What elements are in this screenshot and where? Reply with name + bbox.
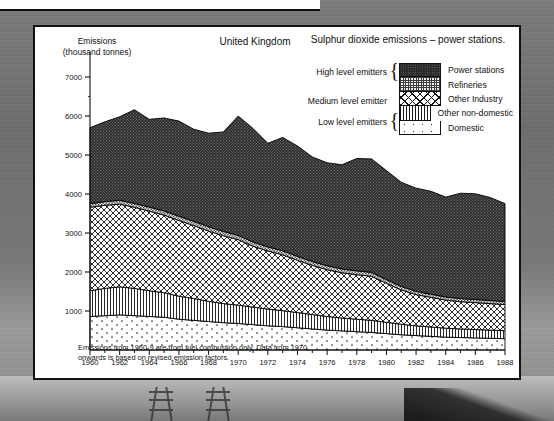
page-top-white-band — [0, 0, 320, 11]
y-tick-labels: 1000200030004000500060007000 — [65, 73, 82, 316]
x-tick-label: 1976 — [319, 358, 336, 367]
x-tick-label: 1978 — [348, 358, 365, 367]
legend-label-power-stations: Power stations — [448, 65, 504, 75]
legend-swatch-other-industry — [399, 92, 441, 106]
x-tick-label: 1980 — [378, 358, 395, 367]
legend-item-other-industry[interactable]: Other Industry — [399, 92, 513, 106]
legend-swatch-domestic — [399, 121, 441, 135]
legend-swatch-power-stations — [399, 63, 441, 77]
x-tick-label: 1982 — [408, 358, 425, 367]
brace-high-icon: { — [389, 60, 399, 80]
legend-label-refineries: Refineries — [448, 80, 487, 90]
brace-low-icon: { — [389, 110, 399, 130]
y-tick-label: 2000 — [65, 268, 82, 277]
y-tick-label: 7000 — [65, 73, 82, 82]
footnote: Emissions from 1960-9 are from fuel comb… — [78, 343, 318, 363]
y-tick-label: 6000 — [65, 112, 82, 121]
y-tick-label: 5000 — [65, 151, 82, 160]
x-tick-label: 1988 — [497, 358, 514, 367]
legend-label-other-industry: Other Industry — [448, 94, 502, 104]
x-tick-label: 1984 — [437, 358, 454, 367]
y-tick-label: 1000 — [65, 307, 82, 316]
legend-item-power-stations[interactable]: Power stations — [399, 63, 513, 77]
legend-group-high: High level emitters — [316, 67, 387, 77]
legend-swatch-refineries — [399, 77, 441, 91]
legend-group-medium: Medium level emitter — [308, 96, 387, 106]
legend-item-other-non-domestic[interactable]: Other non-domestic — [399, 106, 513, 120]
legend: High level emitters Medium level emitter… — [271, 63, 513, 143]
background-hillside — [404, 388, 554, 421]
chart-card: Emissions (thousand tonnes) United Kingd… — [33, 25, 521, 380]
legend-swatch-other-non-domestic — [399, 106, 431, 120]
legend-item-domestic[interactable]: Domestic — [399, 121, 513, 135]
y-tick-label: 3000 — [65, 229, 82, 238]
y-tick-label: 4000 — [65, 190, 82, 199]
area-layers — [90, 110, 505, 350]
legend-item-refineries[interactable]: Refineries — [399, 77, 513, 91]
legend-group-low: Low level emitters — [318, 117, 387, 127]
legend-label-other-non-domestic: Other non-domestic — [438, 108, 513, 118]
pylon-icon — [205, 387, 231, 421]
legend-label-domestic: Domestic — [448, 123, 484, 133]
pylon-icon — [148, 387, 174, 421]
x-tick-label: 1986 — [467, 358, 484, 367]
